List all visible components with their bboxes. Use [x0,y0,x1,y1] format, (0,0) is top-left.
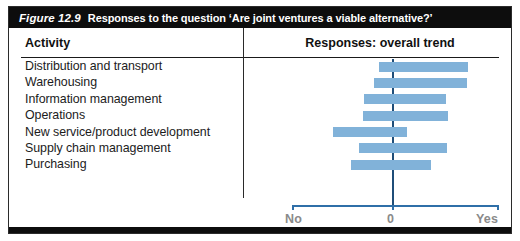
axis-tick-zero [392,205,394,210]
figure-title-bar: Figure 12.9 Responses to the question ‘A… [9,7,511,28]
axis-line [292,205,499,207]
table-header-row: Activity Responses: overall trend [21,34,499,57]
column-header-activity: Activity [25,36,70,50]
axis-tick-yes [497,205,499,210]
figure-bottom-strip [9,227,511,233]
bar-information-management [364,94,446,104]
row-label-information-management: Information management [25,92,162,106]
figure-body: Activity Responses: overall trend Distri… [9,28,511,233]
table-row: New service/product development [21,125,499,141]
table-row: Information management [21,92,499,108]
header-underline [21,57,499,58]
bar-operations [363,111,448,121]
column-header-responses: Responses: overall trend [261,36,499,50]
bar-supply-chain-management [359,143,447,153]
axis-label-no: No [285,212,302,226]
axis-label-yes: Yes [476,212,498,226]
row-label-new-service-product-development: New service/product development [25,125,210,139]
figure-container: Figure 12.9 Responses to the question ‘A… [8,6,512,234]
bar-new-service-product-development [333,127,407,137]
axis-tick-no [292,205,294,210]
row-label-distribution-and-transport: Distribution and transport [25,59,162,73]
row-label-operations: Operations [25,108,85,122]
table-row: Operations [21,108,499,124]
row-label-warehousing: Warehousing [25,75,97,89]
table-row: Purchasing [21,157,499,173]
table-row: Distribution and transport [21,59,499,75]
figure-number: Figure 12.9 [19,12,81,24]
figure-caption: Responses to the question ‘Are joint ven… [88,12,433,24]
axis-label-zero: 0 [387,212,394,226]
bar-purchasing [351,160,431,170]
table-rows: Distribution and transport Warehousing I… [21,59,499,205]
row-label-purchasing: Purchasing [25,157,87,171]
table-row: Warehousing [21,75,499,91]
bar-distribution-and-transport [379,62,468,72]
table-row: Supply chain management [21,141,499,157]
row-label-supply-chain-management: Supply chain management [25,141,171,155]
bar-warehousing [374,78,467,88]
